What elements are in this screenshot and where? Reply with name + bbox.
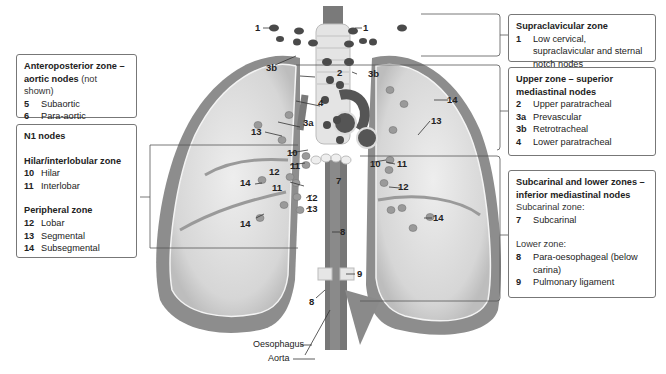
legend-row: 4Lower paratracheal (516, 136, 648, 149)
supraclavicular-zone-panel: Supraclavicular zone 1Low cervical, supr… (508, 14, 656, 62)
n1-nodes-panel: N1 nodes Hilar/interlobular zone 10Hilar… (16, 124, 137, 258)
upper-zone-title: Upper zone – superior mediastinal nodes (516, 73, 648, 98)
anteroposterior-zone-panel: Anteroposterior zone – aortic nodes (not… (16, 54, 137, 118)
node-label-8: 8 (340, 226, 345, 237)
legend-row: 3aPrevascular (516, 111, 648, 124)
node-label-4: 4 (318, 97, 323, 108)
subcarinal-lower-title: Subcarinal and lower zones – inferior me… (516, 176, 648, 201)
subcarinal-lower-zone-panel: Subcarinal and lower zones – inferior me… (508, 170, 656, 298)
legend-row: 12Lobar (24, 217, 129, 230)
node-label-9: 9 (357, 268, 362, 279)
node-label-1-left: 1 (255, 22, 260, 33)
node-label-10-left: 10 (287, 147, 298, 158)
node-label-13-left-lower: 13 (307, 203, 318, 214)
node-label-13-right: 13 (431, 115, 442, 126)
node-label-3b-right: 3b (368, 68, 379, 79)
node-label-14-upper-right: 14 (447, 94, 458, 105)
legend-row: 3bRetrotracheal (516, 123, 648, 136)
node-label-3b-left: 3b (266, 62, 277, 73)
anteroposterior-title: Anteroposterior zone – aortic nodes (not… (24, 60, 129, 98)
node-label-13-left: 13 (251, 126, 262, 137)
node-label-2: 2 (337, 67, 342, 78)
node-label-11-left: 11 (290, 160, 300, 171)
node-label-7: 7 (336, 175, 341, 186)
legend-row: 13Segmental (24, 230, 129, 243)
node-label-12-right: 12 (398, 181, 409, 192)
peripheral-zone-title: Peripheral zone (24, 204, 129, 217)
node-label-14-left-lower: 14 (240, 218, 251, 229)
oesophagus-label: Oesophagus (253, 339, 304, 349)
subcarinal-heading: Subcarinal zone: (516, 201, 648, 214)
legend-row: 6Para-aortic (24, 110, 129, 123)
legend-row: 1Low cervical, supraclavicular and stern… (516, 33, 648, 71)
supraclavicular-title: Supraclavicular zone (516, 20, 648, 33)
node-label-10-right: 10 (370, 158, 381, 169)
node-label-14-right: 14 (433, 212, 444, 223)
legend-row: 10Hilar (24, 167, 129, 180)
lower-zone-heading: Lower zone: (516, 238, 648, 251)
legend-row: 8Para-oesophageal (below carina) (516, 251, 648, 276)
trachea (323, 6, 343, 26)
legend-row: 7Subcarinal (516, 214, 648, 227)
node-label-12-left: 12 (269, 166, 280, 177)
hilar-zone-title: Hilar/interlobular zone (24, 155, 129, 168)
node-label-3a: 3a (303, 117, 314, 128)
node-label-12-left-lower: 12 (307, 192, 318, 203)
node-label-14-left: 14 (240, 177, 251, 188)
n1-title: N1 nodes (24, 130, 129, 143)
node-label-11-left-lower: 11 (272, 182, 282, 193)
node-label-11-right: 11 (397, 158, 407, 169)
node-label-1-right: 1 (363, 22, 368, 33)
legend-row: 14Subsegmental (24, 242, 129, 255)
upper-zone-panel: Upper zone – superior mediastinal nodes … (508, 67, 656, 156)
legend-row: 5Subaortic (24, 98, 129, 111)
node-label-8-lower: 8 (309, 296, 314, 307)
aorta-label: Aorta (268, 353, 290, 363)
legend-row: 2Upper paratracheal (516, 98, 648, 111)
legend-row: 9Pulmonary ligament (516, 276, 648, 289)
legend-row: 11Interlobar (24, 180, 129, 193)
